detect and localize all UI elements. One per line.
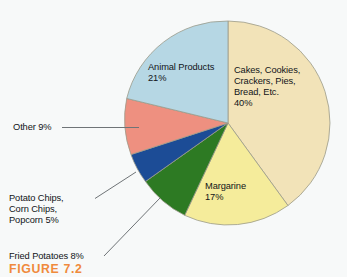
leader-line-potato-chips [95, 172, 136, 199]
leader-line-fried-potatoes [104, 198, 160, 256]
pie-slices [125, 21, 330, 225]
figure-pie-chart-food-sources: Cakes, Cookies, Crackers, Pies, Bread, E… [0, 0, 347, 277]
figure-caption: FIGURE 7.2 [9, 262, 82, 276]
pie-chart-graphic [0, 0, 347, 277]
